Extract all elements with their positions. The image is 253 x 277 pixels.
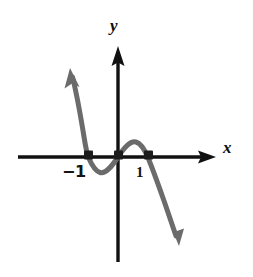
- tick-label-negative-one: −1: [62, 164, 86, 180]
- x-axis-label: x: [223, 139, 232, 156]
- graph-canvas: [0, 0, 253, 277]
- root-marker-one: [144, 151, 153, 160]
- root-marker-neg-one: [84, 151, 93, 160]
- curve-arrowhead-lower-right: [171, 226, 185, 246]
- y-axis-label: y: [110, 17, 118, 34]
- root-marker-zero: [114, 151, 123, 160]
- tick-label-one: 1: [136, 165, 144, 180]
- cubic-graph-figure: x y −1 1: [0, 0, 253, 277]
